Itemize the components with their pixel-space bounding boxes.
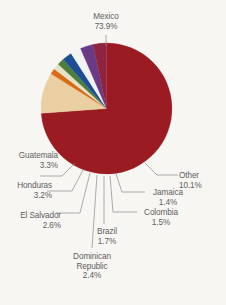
slice-label-honduras: Honduras 3.2%	[0, 181, 52, 200]
slice-label-guatemala-value: 3.3%	[0, 161, 58, 171]
slice-label-guatemala-name: Guatemala	[0, 151, 58, 161]
slice-label-el-salvador-value: 2.6%	[0, 221, 61, 231]
slice-label-el-salvador-name: El Salvador	[0, 211, 61, 221]
slice-label-dominican-republic-name-line1: Dominican	[58, 252, 126, 262]
slice-label-other-name: Other	[179, 171, 225, 181]
slice-label-dominican-republic-name-line2: Republic	[58, 262, 126, 272]
leader-line-el-salvador	[56, 173, 90, 213]
slice-label-other: Other 10.1%	[179, 171, 225, 190]
pie-chart-figure: Mexico 73.9% Guatemala 3.3% Honduras 3.2…	[0, 0, 226, 305]
slice-label-honduras-value: 3.2%	[0, 191, 52, 201]
leader-line-other	[145, 163, 178, 175]
slice-label-guatemala: Guatemala 3.3%	[0, 151, 58, 170]
slice-label-other-value: 10.1%	[179, 181, 225, 191]
slice-label-honduras-name: Honduras	[0, 181, 52, 191]
slice-label-mexico-value: 73.9%	[78, 22, 134, 32]
slice-label-jamaica: Jamaica 1.4%	[145, 188, 191, 207]
leader-line-jamaica	[116, 174, 145, 192]
slice-label-colombia-value: 1.5%	[136, 218, 186, 228]
slice-label-brazil: Brazil 1.7%	[88, 227, 126, 246]
slice-label-brazil-value: 1.7%	[88, 237, 126, 247]
slice-label-brazil-name: Brazil	[88, 227, 126, 237]
leader-line-colombia	[110, 176, 137, 212]
slice-label-colombia: Colombia 1.5%	[136, 208, 186, 227]
slice-label-dominican-republic-value: 2.4%	[58, 271, 126, 281]
slice-label-el-salvador: El Salvador 2.6%	[0, 211, 61, 230]
slice-label-mexico: Mexico 73.9%	[78, 12, 134, 31]
pie-slices-group	[41, 43, 172, 174]
slice-label-mexico-name: Mexico	[78, 12, 134, 22]
slice-label-colombia-name: Colombia	[136, 208, 186, 218]
slice-label-dominican-republic: Dominican Republic 2.4%	[58, 252, 126, 281]
slice-label-jamaica-value: 1.4%	[145, 198, 191, 208]
